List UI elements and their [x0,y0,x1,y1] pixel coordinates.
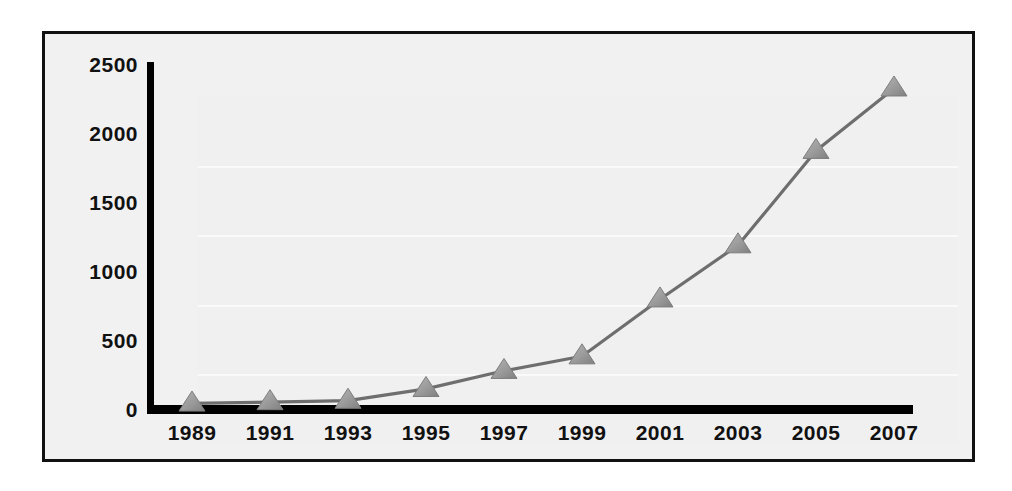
gridline-1000 [198,305,958,307]
x-tick-label-1999: 1999 [558,421,607,445]
y-axis-line [147,62,154,412]
y-tick-label-0: 0 [126,398,138,422]
y-tick-label-1000: 1000 [89,260,138,284]
chart-figure: 2500 2000 1500 1000 500 0 1989 1991 1993… [0,0,1012,491]
gridline-2000 [198,166,958,168]
y-tick-label-2500: 2500 [89,53,138,77]
x-tick-label-2001: 2001 [636,421,685,445]
y-tick-label-1500: 1500 [89,191,138,215]
x-tick-label-2005: 2005 [792,421,841,445]
x-axis-line [147,405,913,414]
y-tick-label-2000: 2000 [89,122,138,146]
x-tick-label-1997: 1997 [480,421,529,445]
gridline-500 [198,374,958,376]
x-tick-label-1993: 1993 [324,421,373,445]
gridline-1500 [198,235,958,237]
chart-frame [42,31,975,462]
x-tick-label-1991: 1991 [246,421,295,445]
x-tick-label-2007: 2007 [870,421,919,445]
x-tick-label-1989: 1989 [168,421,217,445]
y-axis-tick-labels: 2500 2000 1500 1000 500 0 [50,0,138,491]
plot-area [198,96,958,444]
x-tick-label-2003: 2003 [714,421,763,445]
x-tick-label-1995: 1995 [402,421,451,445]
y-tick-label-500: 500 [101,329,138,353]
